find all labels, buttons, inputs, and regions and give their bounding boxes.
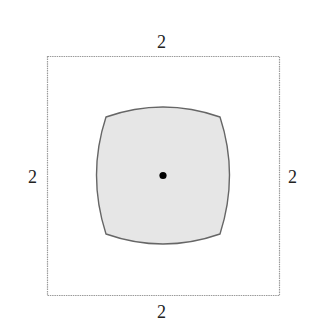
center-point xyxy=(159,172,166,179)
label-right: 2 xyxy=(288,168,297,186)
label-left: 2 xyxy=(28,168,37,186)
label-bottom: 2 xyxy=(157,303,166,321)
label-top: 2 xyxy=(157,33,166,51)
